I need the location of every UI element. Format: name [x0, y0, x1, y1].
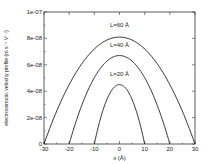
curve-labels: L=60 ÅL=40 ÅL=20 Å	[110, 22, 129, 77]
y-axis-ticks: 02e-084e-086e-088e-081e-07	[27, 9, 195, 147]
y-tick-label: 1e-07	[27, 9, 43, 15]
curve-label: L=20 Å	[110, 71, 129, 77]
curve-20	[94, 85, 144, 144]
x-tick-label: 30	[192, 146, 199, 152]
y-axis-label: electroosmotic velocity profile (m s⁻¹ V…	[3, 30, 9, 126]
curve-40	[69, 56, 170, 144]
curve-label: L=40 Å	[110, 42, 129, 48]
curve-label: L=60 Å	[110, 22, 129, 28]
x-tick-label: -20	[65, 146, 74, 152]
plot-frame	[44, 12, 195, 144]
x-axis-label: x (Å)	[113, 155, 126, 161]
chart: -30-20-100102030 02e-084e-086e-088e-081e…	[0, 0, 207, 164]
x-tick-label: -10	[90, 146, 99, 152]
y-tick-label: 2e-08	[27, 115, 43, 121]
x-tick-label: 10	[141, 146, 148, 152]
y-tick-label: 4e-08	[27, 88, 43, 94]
x-tick-label: 20	[166, 146, 173, 152]
y-tick-label: 6e-08	[27, 62, 43, 68]
curves	[44, 37, 195, 144]
curve-60	[44, 37, 195, 144]
x-tick-label: 0	[118, 146, 122, 152]
y-tick-label: 8e-08	[27, 35, 43, 41]
x-axis-ticks: -30-20-100102030	[40, 12, 199, 152]
